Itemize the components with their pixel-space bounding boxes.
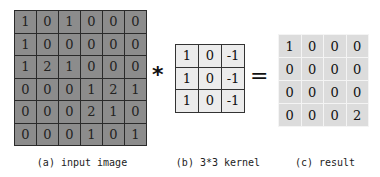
matrix-cell: 0 <box>279 81 302 104</box>
matrix-cell: -1 <box>222 67 245 90</box>
result-matrix: 1000000000000002 <box>278 34 369 127</box>
result-caption: (c) result <box>295 157 355 168</box>
matrix-cell: 0 <box>346 35 369 58</box>
matrix-cell: 1 <box>15 11 37 34</box>
convolution-operator: * <box>152 62 164 87</box>
matrix-cell: 0 <box>103 56 125 79</box>
matrix-row: 000121 <box>15 78 147 101</box>
matrix-cell: 0 <box>59 123 81 146</box>
matrix-cell: 1 <box>59 11 81 34</box>
matrix-row: 10-1 <box>176 67 245 90</box>
matrix-cell: 0 <box>103 11 125 34</box>
matrix-cell: 0 <box>324 81 347 104</box>
matrix-cell: 1 <box>59 56 81 79</box>
matrix-row: 000101 <box>15 123 147 146</box>
matrix-row: 0000 <box>279 58 369 81</box>
matrix-cell: 0 <box>15 101 37 124</box>
matrix-cell: 0 <box>37 33 59 56</box>
matrix-cell: 1 <box>103 101 125 124</box>
kernel-caption: (b) 3*3 kernel <box>176 157 260 168</box>
matrix-cell: 1 <box>176 45 199 68</box>
matrix-cell: 0 <box>199 67 222 90</box>
matrix-cell: 0 <box>301 35 324 58</box>
matrix-cell: 0 <box>103 123 125 146</box>
matrix-cell: 0 <box>279 58 302 81</box>
matrix-cell: 0 <box>15 78 37 101</box>
matrix-cell: 0 <box>199 90 222 113</box>
matrix-cell: 0 <box>279 104 302 127</box>
matrix-row: 121000 <box>15 56 147 79</box>
matrix-cell: 0 <box>81 56 103 79</box>
matrix-cell: 0 <box>346 58 369 81</box>
matrix-cell: 2 <box>37 56 59 79</box>
matrix-cell: 0 <box>37 11 59 34</box>
matrix-cell: 1 <box>125 78 147 101</box>
matrix-cell: 2 <box>103 78 125 101</box>
matrix-cell: 0 <box>199 45 222 68</box>
matrix-cell: 0 <box>37 101 59 124</box>
matrix-cell: 0 <box>59 33 81 56</box>
matrix-row: 000210 <box>15 101 147 124</box>
matrix-cell: 1 <box>176 67 199 90</box>
matrix-cell: 0 <box>346 81 369 104</box>
matrix-cell: -1 <box>222 90 245 113</box>
matrix-cell: 2 <box>346 104 369 127</box>
matrix-cell: 0 <box>324 58 347 81</box>
matrix-cell: 0 <box>301 104 324 127</box>
matrix-cell: 0 <box>125 101 147 124</box>
matrix-cell: 0 <box>125 56 147 79</box>
matrix-cell: 0 <box>125 11 147 34</box>
matrix-cell: 0 <box>324 35 347 58</box>
matrix-cell: 0 <box>81 33 103 56</box>
matrix-row: 101000 <box>15 11 147 34</box>
matrix-cell: 0 <box>301 58 324 81</box>
matrix-row: 10-1 <box>176 45 245 68</box>
matrix-cell: 1 <box>125 123 147 146</box>
kernel-matrix: 10-110-110-1 <box>175 44 245 113</box>
matrix-cell: 0 <box>103 33 125 56</box>
input-image-matrix: 101000100000121000000121000210000101 <box>14 10 147 146</box>
matrix-cell: 1 <box>81 78 103 101</box>
matrix-cell: 0 <box>301 81 324 104</box>
matrix-cell: 0 <box>81 11 103 34</box>
matrix-cell: 1 <box>176 90 199 113</box>
matrix-cell: 1 <box>15 33 37 56</box>
matrix-cell: 0 <box>125 33 147 56</box>
matrix-cell: 0 <box>15 123 37 146</box>
matrix-cell: 0 <box>37 78 59 101</box>
matrix-cell: 0 <box>37 123 59 146</box>
matrix-cell: 1 <box>279 35 302 58</box>
matrix-row: 10-1 <box>176 90 245 113</box>
matrix-cell: 0 <box>324 104 347 127</box>
matrix-row: 1000 <box>279 35 369 58</box>
matrix-cell: 1 <box>15 56 37 79</box>
matrix-cell: -1 <box>222 45 245 68</box>
matrix-row: 100000 <box>15 33 147 56</box>
matrix-cell: 2 <box>81 101 103 124</box>
equals-sign: = <box>250 63 268 88</box>
matrix-row: 0002 <box>279 104 369 127</box>
matrix-cell: 0 <box>59 101 81 124</box>
matrix-cell: 0 <box>59 78 81 101</box>
input-image-caption: (a) input image <box>37 157 127 168</box>
matrix-row: 0000 <box>279 81 369 104</box>
matrix-cell: 1 <box>81 123 103 146</box>
